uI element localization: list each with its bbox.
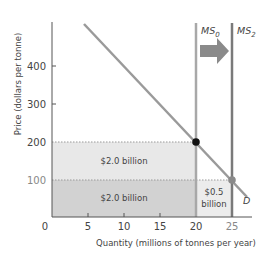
chart: 400 300 200 100 0 5 10 15 20 25 Quantity… xyxy=(0,0,270,257)
area-bottom-label: $2.0 billion xyxy=(100,193,147,203)
equilibrium-new xyxy=(228,176,236,184)
area-top-label: $2.0 billion xyxy=(100,156,147,166)
shift-arrow-icon xyxy=(200,38,229,64)
equilibrium-original xyxy=(192,138,200,146)
x-axis-title: Quantity (millions of tonnes per year) xyxy=(96,238,256,248)
x-tick-label-20: 20 xyxy=(190,221,203,232)
y-tick-label-100: 100 xyxy=(27,175,46,186)
x-tick-label-5: 5 xyxy=(85,221,91,232)
y-tick-label-200: 200 xyxy=(27,137,46,148)
x-tick-label-0: 0 xyxy=(42,221,48,232)
demand-label: D xyxy=(243,195,250,206)
y-axis-title: Price (dollars per tonne) xyxy=(13,33,23,136)
x-tick-label-10: 10 xyxy=(118,221,131,232)
x-tick-label-25: 25 xyxy=(226,221,239,232)
ms0-label: MS0 xyxy=(201,25,220,39)
y-tick-label-300: 300 xyxy=(27,99,46,110)
area-right-label-1: $0.5 xyxy=(205,187,224,197)
x-tick-label-15: 15 xyxy=(154,221,167,232)
y-tick-label-400: 400 xyxy=(27,61,46,72)
area-right-label-2: billion xyxy=(201,199,226,209)
ms2-label: MS2 xyxy=(237,25,256,39)
